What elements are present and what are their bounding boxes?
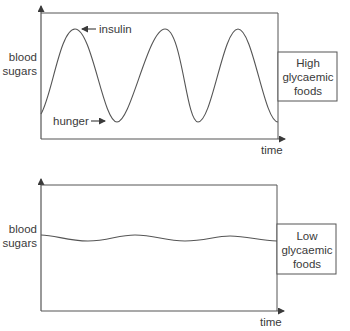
blood-sugar-curve-low	[41, 235, 277, 241]
box-label-line3: foods	[293, 258, 321, 270]
chart-high-glycaemic: insulin hunger blood sugars time High gl…	[2, 6, 337, 156]
box-label-line2: glycaemic	[281, 244, 332, 256]
y-axis-label-line2: sugars	[2, 237, 37, 249]
x-axis-label: time	[260, 316, 282, 328]
box-label-line1: Low	[296, 230, 318, 242]
glycaemic-diagram: insulin hunger blood sugars time High gl…	[0, 0, 350, 331]
blood-sugar-curve-high	[41, 29, 278, 122]
insulin-label: insulin	[99, 23, 132, 35]
hunger-label: hunger	[53, 115, 89, 127]
chart-low-glycaemic: blood sugars time Low glycaemic foods	[2, 179, 336, 328]
box-label-line3: foods	[294, 85, 322, 97]
y-axis-label-line1: blood	[9, 51, 37, 63]
y-axis-label-line2: sugars	[2, 65, 37, 77]
x-axis-label: time	[261, 144, 283, 156]
plot-frame	[41, 185, 277, 311]
y-axis-label-line1: blood	[9, 223, 37, 235]
box-label-line2: glycaemic	[282, 71, 333, 83]
box-label-line1: High	[296, 57, 320, 69]
